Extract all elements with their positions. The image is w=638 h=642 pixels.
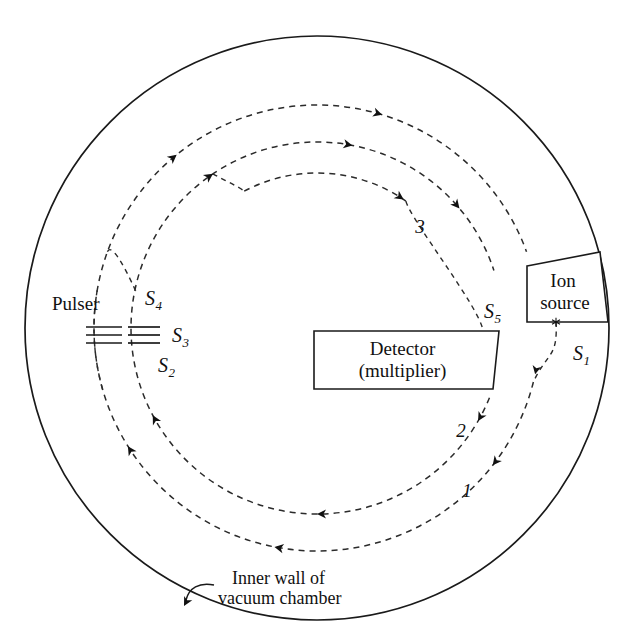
arrowhead-S1-entry [531, 365, 541, 375]
section-label-S1: S1 [573, 342, 590, 368]
ion-source-label-line2: source [540, 292, 590, 313]
section-label-base-S4: S [145, 287, 155, 309]
arrowhead-turn3 [394, 191, 407, 204]
trajectory-S1-entry [533, 322, 556, 382]
pulser-electrode-plates [86, 327, 160, 343]
section-label-base-S5: S [484, 300, 494, 322]
section-label-subscript-S1: 1 [584, 353, 591, 368]
section-label-S4: S4 [145, 287, 163, 313]
arrowhead-right-outer [489, 455, 502, 468]
caption-line1: Inner wall of [232, 568, 325, 588]
arrowhead-lowerleft-inner [149, 413, 161, 425]
section-label-S3: S3 [172, 324, 190, 350]
ion-source-label-line1: Ion [550, 270, 576, 291]
tof-spectrometer-diagram: Detector (multiplier) Ion source Pulser … [0, 0, 638, 642]
figure-root: Detector (multiplier) Ion source Pulser … [0, 0, 638, 642]
caption-line2: vacuum chamber [218, 588, 341, 608]
ion-trajectory-layer [94, 105, 556, 551]
section-label-base-S2: S [158, 354, 168, 376]
section-label-base-S3: S [172, 324, 182, 346]
arrowhead-right-inner [474, 411, 486, 423]
detector-box: Detector (multiplier) [314, 331, 499, 389]
arrowhead-top-outer [372, 108, 383, 119]
ion-source-box: Ion source [527, 252, 608, 326]
detector-label-line2: (multiplier) [359, 360, 447, 382]
trajectory-pulser-transfer [107, 250, 135, 291]
turn-label-turn-1: 1 [462, 480, 472, 501]
arrowhead-lowerleft-outer [124, 444, 137, 457]
inner-wall-caption: Inner wall of vacuum chamber [180, 568, 342, 608]
trajectory-turn3-link [213, 174, 244, 191]
section-label-subscript-S4: 4 [156, 298, 163, 313]
section-label-S2: S2 [158, 354, 176, 380]
trajectory-turn-2 [131, 142, 494, 514]
arrowhead-upperleft-inner [203, 170, 216, 183]
section-label-subscript-S3: 3 [182, 335, 190, 350]
section-label-subscript-S5: 5 [495, 311, 502, 326]
caption-pointer-arrow [186, 584, 214, 600]
section-label-base-S1: S [573, 342, 583, 364]
arrowhead-upperleft-outer [167, 151, 180, 164]
pulser-label: Pulser [52, 293, 100, 314]
section-label-S5: S5 [484, 300, 502, 326]
section-label-subscript-S2: 2 [169, 365, 176, 380]
trajectory-turn-3 [244, 173, 406, 201]
vacuum-chamber-wall [25, 36, 609, 620]
turn-label-turn-3: 3 [414, 216, 425, 237]
detector-label-line1: Detector [370, 338, 436, 359]
turn-label-turn-2: 2 [456, 420, 466, 441]
